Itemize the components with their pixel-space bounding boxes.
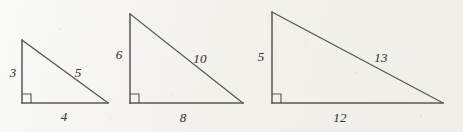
hypotenuse-line — [22, 40, 108, 103]
hypotenuse-line — [130, 14, 243, 103]
hypotenuse-line — [272, 12, 443, 103]
side-label-horizontal-leg: 4 — [61, 110, 68, 123]
side-label-hypotenuse: 5 — [75, 66, 82, 79]
triangle-5-12-13 — [272, 12, 443, 103]
triangles-vector-layer — [0, 0, 463, 132]
right-angle-marker — [22, 94, 31, 103]
right-angle-marker — [130, 94, 139, 103]
side-label-hypotenuse: 10 — [193, 52, 206, 65]
side-label-vertical-leg: 5 — [258, 50, 265, 63]
right-angle-marker — [272, 94, 281, 103]
triangle-3-4-5 — [22, 40, 108, 103]
side-label-horizontal-leg: 8 — [180, 111, 187, 124]
side-label-horizontal-leg: 12 — [333, 111, 346, 124]
figure-canvas: 345681051213 — [0, 0, 463, 132]
side-label-vertical-leg: 3 — [10, 66, 17, 79]
triangle-6-8-10 — [130, 14, 243, 103]
side-label-hypotenuse: 13 — [374, 51, 387, 64]
side-label-vertical-leg: 6 — [116, 48, 123, 61]
